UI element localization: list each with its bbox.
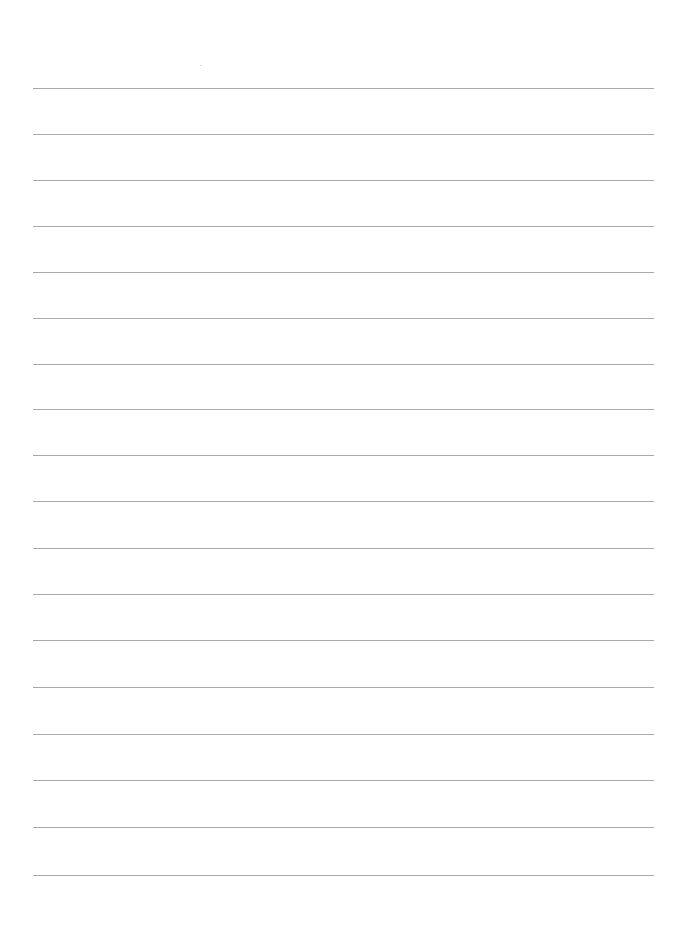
paper-speck: [200, 65, 201, 66]
ruled-line: [33, 455, 654, 456]
ruled-line: [33, 364, 654, 365]
ruled-line: [33, 134, 654, 135]
ruled-line: [33, 780, 654, 781]
ruled-line: [33, 226, 654, 227]
ruled-line: [33, 687, 654, 688]
ruled-line: [33, 640, 654, 641]
ruled-line: [33, 180, 654, 181]
ruled-line: [33, 409, 654, 410]
ruled-line: [33, 318, 654, 319]
ruled-line: [33, 88, 654, 89]
ruled-line: [33, 875, 654, 876]
ruled-line: [33, 501, 654, 502]
ruled-line: [33, 272, 654, 273]
ruled-line: [33, 548, 654, 549]
ruled-line: [33, 734, 654, 735]
lined-paper-page: [0, 0, 680, 928]
ruled-line: [33, 827, 654, 828]
ruled-line: [33, 594, 654, 595]
